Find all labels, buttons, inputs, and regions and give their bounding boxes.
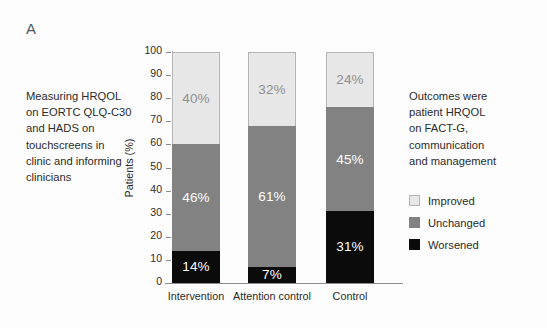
y-tick-mark <box>166 214 171 215</box>
bar-segment-unchanged: 45% <box>326 107 374 211</box>
x-axis-category-label: Attention control <box>233 290 311 302</box>
panel-label: A <box>26 20 36 37</box>
left-note-line-5: clinic and informing <box>26 153 158 169</box>
legend-swatch-icon <box>409 239 420 250</box>
bar-segment-value: 46% <box>182 191 210 205</box>
bar-segment-value: 7% <box>262 268 282 282</box>
y-tick-mark <box>166 144 171 145</box>
y-tick-mark <box>166 168 171 169</box>
bar-segment-value: 32% <box>258 83 286 97</box>
left-note-line-2: on EORTC QLQ-C30 <box>26 104 158 120</box>
left-note-line-4: touchscreens in <box>26 137 158 153</box>
legend-swatch-icon <box>409 217 420 228</box>
y-tick-mark <box>166 191 171 192</box>
legend-label: Unchanged <box>428 217 485 229</box>
stacked-bar: 40%46%14% <box>172 52 220 283</box>
bar-segment-value: 61% <box>258 190 286 204</box>
bar-segment-value: 14% <box>182 260 210 274</box>
right-note-line-4: communication <box>409 137 537 153</box>
bar-segment-value: 40% <box>182 92 210 106</box>
legend-label: Improved <box>428 195 475 207</box>
y-axis-title: Patients (%) <box>123 139 135 198</box>
legend-item-unchanged: Unchanged <box>409 213 485 232</box>
y-tick-label: 100 <box>144 44 162 56</box>
bar-segment-unchanged: 61% <box>248 126 296 267</box>
y-tick-label: 0 <box>156 275 162 287</box>
y-tick-mark <box>166 52 171 53</box>
left-note-line-6: clinicians <box>26 169 158 185</box>
legend-label: Worsened <box>428 239 479 251</box>
y-tick-label: 20 <box>150 229 162 241</box>
legend-item-worsened: Worsened <box>409 235 485 254</box>
bar-segment-unchanged: 46% <box>172 144 220 250</box>
legend-swatch-icon <box>409 195 420 206</box>
y-tick-label: 80 <box>150 90 162 102</box>
y-tick-label: 90 <box>150 67 162 79</box>
y-tick-label: 40 <box>150 183 162 195</box>
y-tick-label: 70 <box>150 113 162 125</box>
y-tick-label: 10 <box>150 252 162 264</box>
stacked-bar: 24%45%31% <box>326 52 374 283</box>
bar-segment-improved: 32% <box>248 52 296 126</box>
plot-area: 010203040506070809010040%46%14%32%61%7%2… <box>172 52 396 283</box>
y-tick-label: 30 <box>150 206 162 218</box>
right-note-line-5: and management <box>409 153 537 169</box>
right-note-line-2: patient HRQOL <box>409 104 537 120</box>
left-note-line-3: and HADS on <box>26 120 158 136</box>
bar-segment-worsened: 14% <box>172 251 220 283</box>
y-tick-mark <box>166 237 171 238</box>
bar-segment-value: 24% <box>336 73 364 87</box>
bar-segment-worsened: 31% <box>326 211 374 283</box>
y-tick-label: 50 <box>150 160 162 172</box>
figure-panel-a: A Measuring HRQOLon EORTC QLQ-C30and HAD… <box>0 0 547 328</box>
right-annotation-text: Outcomes werepatient HRQOLon FACT-G,comm… <box>409 88 537 169</box>
bar-segment-improved: 24% <box>326 52 374 107</box>
bar-segment-improved: 40% <box>172 52 220 144</box>
bar-segment-worsened: 7% <box>248 267 296 283</box>
right-note-line-3: on FACT-G, <box>409 120 537 136</box>
right-note-line-1: Outcomes were <box>409 88 537 104</box>
x-axis-category-label: Control <box>333 290 368 302</box>
bar-segment-value: 45% <box>336 153 364 167</box>
y-tick-mark <box>166 121 171 122</box>
left-note-line-1: Measuring HRQOL <box>26 88 158 104</box>
y-tick-label: 60 <box>150 136 162 148</box>
left-annotation-text: Measuring HRQOLon EORTC QLQ-C30and HADS … <box>26 88 158 185</box>
y-tick-mark <box>166 98 171 99</box>
chart-legend: ImprovedUnchangedWorsened <box>409 191 485 257</box>
x-axis-line <box>165 283 403 284</box>
y-tick-mark <box>166 75 171 76</box>
y-tick-mark <box>166 283 171 284</box>
y-tick-mark <box>166 260 171 261</box>
stacked-bar: 32%61%7% <box>248 52 296 283</box>
bar-segment-value: 31% <box>336 240 364 254</box>
legend-item-improved: Improved <box>409 191 485 210</box>
x-axis-category-label: Intervention <box>168 290 224 302</box>
